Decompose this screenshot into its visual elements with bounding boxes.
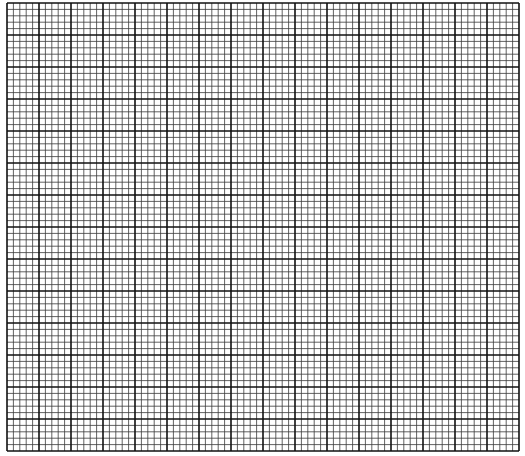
graph-paper-grid (0, 0, 525, 456)
